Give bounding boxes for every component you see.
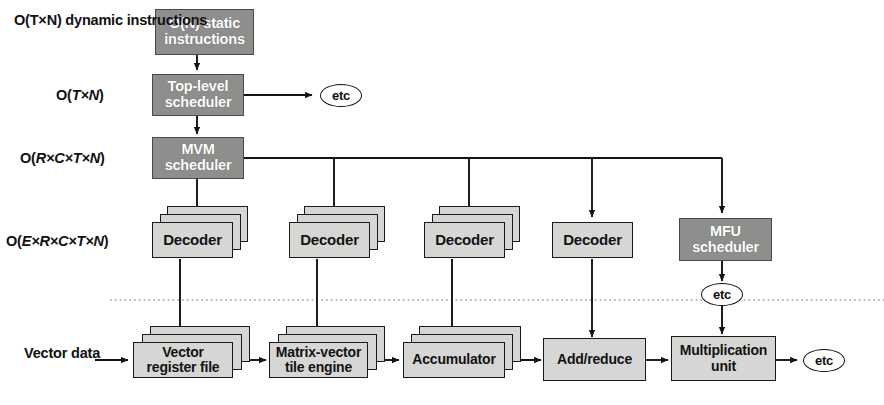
label-vector-data: Vector data xyxy=(24,345,88,362)
etc-top-level-label: etc xyxy=(332,88,350,103)
vector-register-file-line1: Vector xyxy=(147,345,220,360)
diagram-canvas: O(T×N) dynamic instructions O(T×N) O(R×C… xyxy=(0,0,884,405)
multiplication-unit-line2: unit xyxy=(680,359,767,374)
multiplication-unit-box[interactable]: Multiplication unit xyxy=(671,336,776,381)
etc-top-level-marker[interactable]: etc xyxy=(320,84,362,107)
mfu-scheduler-box[interactable]: MFU scheduler xyxy=(679,218,772,261)
decoder-4-label: Decoder xyxy=(563,232,622,248)
etc-output-marker[interactable]: etc xyxy=(803,349,845,372)
mfu-scheduler-line1: MFU xyxy=(692,224,759,240)
decoder-1-label: Decoder xyxy=(163,232,222,248)
decoder-2-box[interactable]: Decoder xyxy=(289,222,370,258)
add-reduce-label: Add/reduce xyxy=(557,352,632,367)
mvm-scheduler-line2: scheduler xyxy=(165,158,232,174)
label-mvm-complexity-vars: R×C×T×N xyxy=(36,150,100,166)
matrix-vector-tile-engine-line2: tile engine xyxy=(276,360,361,375)
decoder-1-box[interactable]: Decoder xyxy=(152,222,233,258)
vector-register-file-box[interactable]: Vector register file xyxy=(133,342,233,378)
label-mvm-complexity: O(R×C×T×N) xyxy=(20,150,105,167)
label-vector-data-line2: data xyxy=(71,345,100,361)
label-decoder-complexity: O(E×R×C×T×N) xyxy=(6,233,108,250)
add-reduce-box[interactable]: Add/reduce xyxy=(543,338,646,381)
multiplication-unit-line1: Multiplication xyxy=(680,343,767,358)
decoder-4-box[interactable]: Decoder xyxy=(552,222,633,258)
top-level-scheduler-line2: scheduler xyxy=(165,95,232,111)
static-instructions-line2: instructions xyxy=(164,32,245,48)
label-dynamic-instructions-line1: O(T×N) dynamic xyxy=(14,12,123,28)
accumulator-box[interactable]: Accumulator xyxy=(403,342,505,378)
label-vector-data-line1: Vector xyxy=(24,345,67,361)
top-level-scheduler-box[interactable]: Top-level scheduler xyxy=(152,74,244,116)
decoder-3-label: Decoder xyxy=(435,232,494,248)
label-dynamic-instructions: O(T×N) dynamic instructions xyxy=(14,12,146,29)
accumulator-label: Accumulator xyxy=(412,352,495,367)
label-top-level-complexity: O(T×N) xyxy=(56,87,104,104)
label-dynamic-instructions-line2: instructions xyxy=(127,12,208,28)
mvm-scheduler-line1: MVM xyxy=(165,142,232,158)
decoder-3-box[interactable]: Decoder xyxy=(424,222,505,258)
etc-mfu-marker[interactable]: etc xyxy=(701,283,743,306)
top-level-scheduler-line1: Top-level xyxy=(165,79,232,95)
matrix-vector-tile-engine-box[interactable]: Matrix-vector tile engine xyxy=(269,342,368,378)
mfu-scheduler-line2: scheduler xyxy=(692,240,759,256)
etc-mfu-label: etc xyxy=(713,287,731,302)
mvm-scheduler-box[interactable]: MVM scheduler xyxy=(152,137,244,179)
label-top-level-complexity-vars: T×N xyxy=(72,87,99,103)
matrix-vector-tile-engine-line1: Matrix-vector xyxy=(276,345,361,360)
etc-output-label: etc xyxy=(815,353,833,368)
decoder-2-label: Decoder xyxy=(300,232,359,248)
vector-register-file-line2: register file xyxy=(147,360,220,375)
label-decoder-complexity-vars: E×R×C×T×N xyxy=(22,233,104,249)
